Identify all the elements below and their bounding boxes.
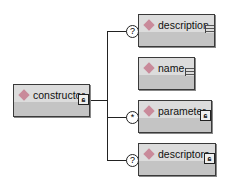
connector-root: [90, 100, 107, 101]
text-content-icon: [205, 25, 214, 33]
text-content-icon: [185, 68, 194, 76]
connector-parameter: [107, 117, 127, 118]
node-parameter[interactable]: parameter ɕ: [138, 100, 212, 133]
sequence-icon[interactable]: ɕ: [204, 153, 215, 164]
element-icon: [143, 19, 154, 30]
node-constructor[interactable]: constructor ɕ: [13, 84, 90, 117]
node-description[interactable]: description: [138, 14, 215, 47]
element-icon: [143, 105, 154, 116]
node-label: description: [158, 19, 209, 31]
node-name[interactable]: name: [138, 57, 195, 90]
connector-description: [107, 31, 127, 32]
element-icon: [143, 148, 154, 159]
sequence-icon[interactable]: ɕ: [78, 94, 89, 105]
element-icon: [18, 89, 29, 100]
sequence-icon[interactable]: ɕ: [200, 110, 211, 121]
connector-descriptors: [107, 160, 127, 161]
node-label: parameter: [158, 105, 206, 117]
connector-trunk: [107, 31, 108, 161]
node-label: name: [158, 62, 184, 74]
element-icon: [143, 62, 154, 73]
node-label: descriptors: [158, 148, 209, 160]
node-descriptors[interactable]: descriptors ɕ: [138, 143, 216, 176]
